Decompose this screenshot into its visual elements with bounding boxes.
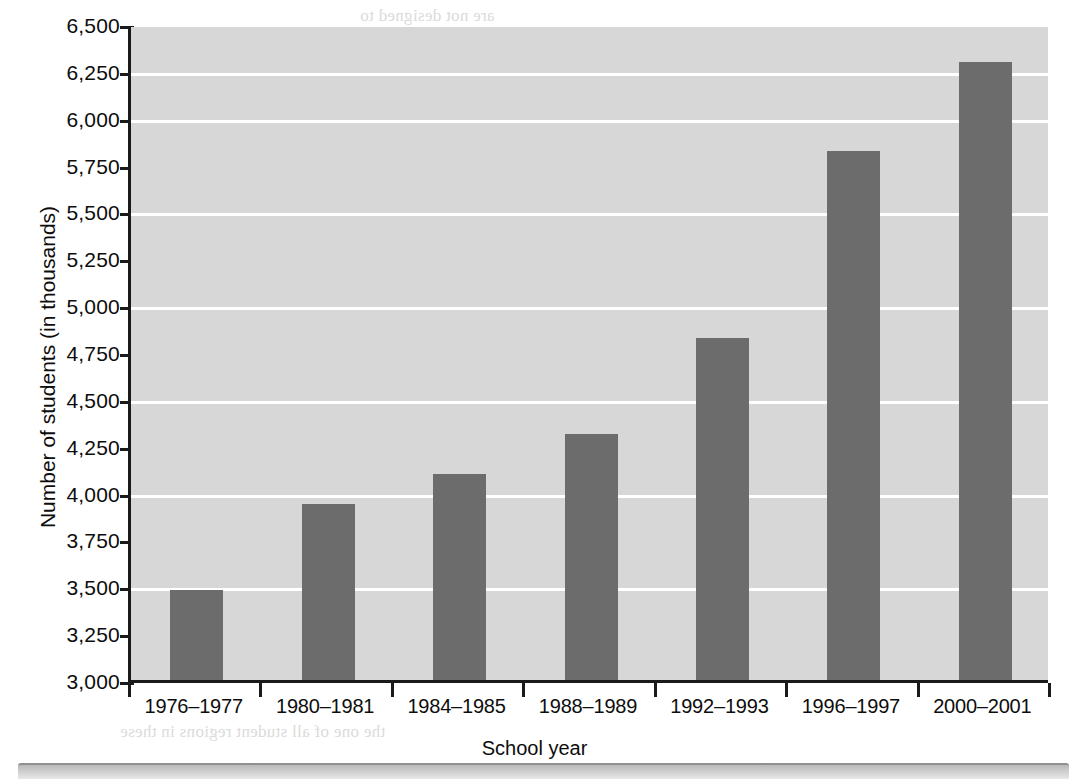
x-tick-label: 1996–1997 bbox=[776, 695, 926, 718]
y-tick-label: 6,500 bbox=[8, 14, 120, 38]
y-tick-label: 4,750 bbox=[8, 342, 120, 366]
y-tick-label: 5,250 bbox=[8, 248, 120, 272]
x-tick-label: 1976–1977 bbox=[119, 695, 269, 718]
x-axis-title: School year bbox=[0, 737, 1069, 760]
bar bbox=[433, 474, 486, 680]
y-tick-label: 6,000 bbox=[8, 108, 120, 132]
gridline bbox=[131, 401, 1048, 404]
y-tick-label: 4,000 bbox=[8, 483, 120, 507]
x-tick-label: 1992–1993 bbox=[644, 695, 794, 718]
x-tick-label: 2000–2001 bbox=[907, 695, 1057, 718]
bar bbox=[827, 151, 880, 680]
y-tick-label: 3,000 bbox=[8, 670, 120, 694]
bleed-line: are not designed to bbox=[360, 6, 495, 26]
y-tick-label: 3,750 bbox=[8, 529, 120, 553]
bar bbox=[696, 338, 749, 680]
y-tick-label: 4,500 bbox=[8, 389, 120, 413]
gridline bbox=[131, 73, 1048, 76]
y-tick-label: 3,250 bbox=[8, 623, 120, 647]
x-tick-label: 1980–1981 bbox=[250, 695, 400, 718]
y-tick-label: 5,750 bbox=[8, 155, 120, 179]
bar bbox=[170, 590, 223, 680]
y-tick-label: 5,500 bbox=[8, 201, 120, 225]
gridline bbox=[131, 213, 1048, 216]
bar bbox=[302, 504, 355, 680]
gridline bbox=[131, 307, 1048, 310]
bar bbox=[565, 434, 618, 680]
y-tick-label: 3,500 bbox=[8, 576, 120, 600]
y-tick-label: 6,250 bbox=[8, 61, 120, 85]
y-tick-label: 4,250 bbox=[8, 436, 120, 460]
x-tick-label: 1988–1989 bbox=[513, 695, 663, 718]
chart-page: are not designed to and are designed. Cl… bbox=[0, 0, 1069, 779]
x-tick-label: 1984–1985 bbox=[382, 695, 532, 718]
page-edge-artifact bbox=[18, 763, 1069, 779]
gridline bbox=[131, 120, 1048, 123]
bar bbox=[959, 62, 1012, 681]
y-tick-label: 5,000 bbox=[8, 295, 120, 319]
y-axis-labels: 3,0003,2503,5003,7504,0004,2504,5004,750… bbox=[0, 0, 120, 779]
plot-area bbox=[128, 27, 1048, 683]
